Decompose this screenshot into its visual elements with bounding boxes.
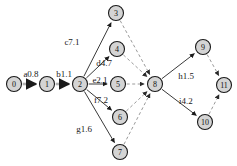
edge-label-2-7: g1.6 bbox=[76, 124, 92, 134]
graph-node-6[interactable]: 6 bbox=[113, 110, 128, 125]
node-circle-7 bbox=[113, 145, 128, 160]
graph-edge-2-7 bbox=[84, 91, 114, 142]
graph-node-0[interactable]: 0 bbox=[7, 77, 22, 92]
node-circle-8 bbox=[148, 77, 163, 92]
edge-label-1-2: b1.1 bbox=[56, 69, 72, 79]
graph-diagram-canvas: a0.8b1.1c7.1d4.7e2.1f7.2g1.6h1.5i4.2 012… bbox=[0, 0, 237, 166]
graph-edge-7-8 bbox=[124, 94, 150, 145]
graph-svg: a0.8b1.1c7.1d4.7e2.1f7.2g1.6h1.5i4.2 012… bbox=[0, 0, 237, 166]
node-circle-3 bbox=[109, 6, 124, 21]
node-circle-1 bbox=[40, 77, 55, 92]
node-circle-2 bbox=[73, 77, 88, 92]
node-circle-5 bbox=[111, 77, 126, 92]
graph-node-11[interactable]: 11 bbox=[217, 78, 232, 93]
graph-edge-2-6 bbox=[87, 90, 112, 111]
graph-edge-9-11 bbox=[207, 55, 219, 76]
edge-label-2-6: f7.2 bbox=[94, 95, 108, 105]
graph-node-8[interactable]: 8 bbox=[148, 77, 163, 92]
graph-edge-4-8 bbox=[123, 55, 147, 77]
graph-edge-8-10 bbox=[162, 89, 196, 115]
graph-node-3[interactable]: 3 bbox=[109, 6, 124, 21]
node-circle-9 bbox=[196, 40, 211, 55]
graph-node-2[interactable]: 2 bbox=[73, 77, 88, 92]
node-circle-11 bbox=[217, 78, 232, 93]
graph-node-7[interactable]: 7 bbox=[113, 145, 128, 160]
graph-node-4[interactable]: 4 bbox=[110, 42, 125, 57]
nodes-layer: 01234567891011 bbox=[7, 6, 232, 160]
graph-edge-8-9 bbox=[162, 54, 194, 79]
edge-label-8-9: h1.5 bbox=[178, 71, 194, 81]
graph-node-9[interactable]: 9 bbox=[196, 40, 211, 55]
node-circle-6 bbox=[113, 110, 128, 125]
node-circle-10 bbox=[198, 115, 213, 130]
graph-node-5[interactable]: 5 bbox=[111, 77, 126, 92]
graph-edge-6-8 bbox=[126, 91, 147, 111]
graph-edge-2-3 bbox=[84, 23, 111, 77]
graph-node-10[interactable]: 10 bbox=[198, 115, 213, 130]
graph-edge-2-4 bbox=[86, 56, 109, 78]
node-circle-4 bbox=[110, 42, 125, 57]
graph-edge-10-11 bbox=[209, 95, 219, 115]
edge-label-0-1: a0.8 bbox=[23, 69, 39, 79]
edge-label-2-3: c7.1 bbox=[64, 37, 79, 47]
graph-node-1[interactable]: 1 bbox=[40, 77, 55, 92]
node-circle-0 bbox=[7, 77, 22, 92]
